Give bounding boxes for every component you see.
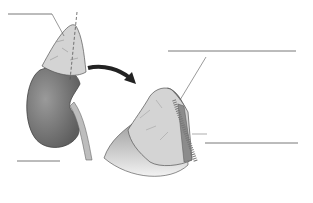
leader-right-top [180,57,206,100]
leader-top-left [52,14,64,36]
enlarged-section [104,88,196,176]
diagram-canvas [0,0,313,203]
adrenal-kidney-diagram [0,0,313,203]
arrow-icon [88,67,130,78]
kidney [27,67,92,160]
adrenal-gland [42,25,86,76]
